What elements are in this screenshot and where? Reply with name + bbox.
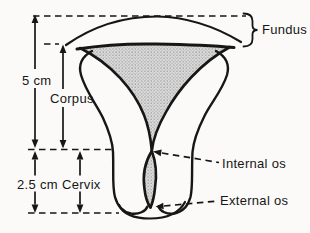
internal-os-leader-line: [162, 153, 219, 163]
corpus-label: Corpus: [50, 91, 94, 106]
diagram-canvas: Fundus 5 cm Corpus 2.5 cm Cervix Interna…: [0, 0, 310, 233]
fundus-brace: [244, 14, 258, 47]
uterus-anatomy-diagram: Fundus 5 cm Corpus 2.5 cm Cervix Interna…: [0, 0, 310, 233]
two-point-five-cm-arrow-bottom-head: [32, 205, 39, 214]
outer-fundus-contour: [66, 17, 241, 46]
two-point-five-cm-arrow-top-head: [32, 151, 39, 160]
cervix-length-label: 2.5 cm: [17, 177, 58, 192]
five-cm-arrow-bottom-head: [32, 140, 39, 149]
corpus-length-label: 5 cm: [22, 73, 51, 88]
fundus-label: Fundus: [262, 22, 307, 37]
external-os-label: External os: [220, 193, 289, 208]
internal-os-label: Internal os: [222, 156, 286, 171]
cervix-arrow-top-head: [77, 151, 84, 160]
cervix-label: Cervix: [62, 177, 101, 192]
external-os-leader-line: [164, 201, 218, 206]
cervix-arrow-bottom-head: [77, 205, 84, 214]
corpus-arrow-bottom-head: [60, 140, 67, 149]
leader-lines: [153, 150, 219, 210]
